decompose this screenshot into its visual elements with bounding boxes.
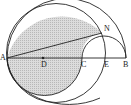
label-D: D — [41, 61, 47, 69]
diagram-canvas — [0, 0, 131, 105]
point-D-dot — [42, 57, 45, 60]
geometry-diagram: A D C E B N — [0, 0, 131, 105]
label-N: N — [104, 25, 110, 33]
label-E: E — [104, 61, 109, 69]
label-C: C — [81, 61, 86, 69]
shaded-region — [7, 16, 102, 95]
label-A: A — [0, 54, 6, 62]
label-B: B — [123, 61, 128, 69]
